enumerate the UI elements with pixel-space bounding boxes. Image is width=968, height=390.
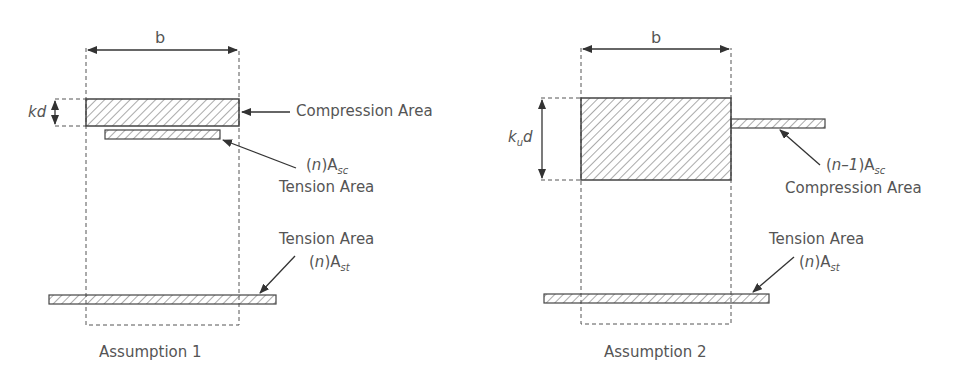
compression-steel-bar (731, 119, 825, 128)
tension-area-label: Tension Area (769, 232, 864, 247)
compression-area-block (581, 98, 731, 180)
tension-area-label: Tension Area (279, 232, 374, 247)
caption-assumption-2: Assumption 2 (604, 345, 707, 360)
assumption-2-section (541, 48, 825, 324)
kd-label: kd (28, 105, 46, 120)
assumption-1-section (49, 48, 296, 325)
section-outline-dashed (581, 48, 731, 324)
width-label: b (651, 30, 661, 46)
leader-nast (753, 257, 794, 292)
width-label: b (155, 30, 165, 46)
compression-steel-bar (105, 130, 220, 139)
compression-area-block (86, 99, 239, 126)
nast-label: (n)Ast (799, 255, 840, 273)
compression-area-label: Compression Area (296, 104, 433, 119)
n1asc-label: (n–1)Asc (826, 158, 885, 176)
nast-label: (n)Ast (309, 255, 350, 273)
leader-nasc (223, 140, 296, 168)
tension-steel-bar (544, 294, 769, 303)
compression-area-label: Compression Area (785, 181, 922, 196)
kud-label: kud (508, 130, 533, 148)
tension-area-label-top: Tension Area (279, 180, 374, 195)
section-outline-dashed (86, 48, 239, 325)
caption-assumption-1: Assumption 1 (99, 345, 202, 360)
nasc-label: (n)Asc (306, 158, 348, 176)
leader-nast (260, 256, 295, 293)
leader-n1asc (780, 130, 820, 165)
tension-steel-bar (49, 295, 276, 304)
